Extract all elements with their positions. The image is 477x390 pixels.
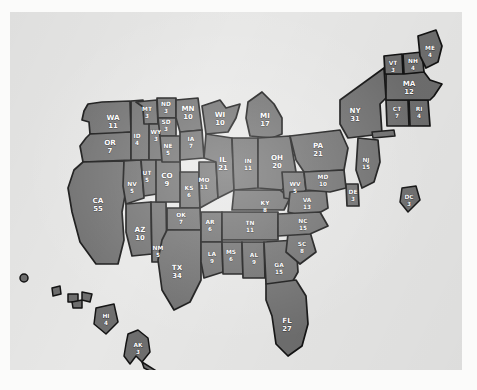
label-votes-hi: 4: [104, 320, 108, 326]
label-abbr-mn: MN: [181, 104, 194, 113]
screenshot-root: WA 11 OR 7 CA 55 NV 5 ID 4 MT 3 WY 3 UT …: [0, 0, 477, 390]
label-votes-wi: 10: [215, 119, 225, 127]
label-abbr-sc: SC: [298, 241, 307, 247]
label-abbr-me: ME: [425, 45, 435, 51]
label-votes-ga: 15: [275, 269, 283, 275]
state-shape-or[interactable]: [80, 132, 131, 162]
state-shape-nj[interactable]: [356, 138, 380, 188]
label-abbr-ia: IA: [188, 136, 195, 142]
electoral-map-panel: WA 11 OR 7 CA 55 NV 5 ID 4 MT 3 WY 3 UT …: [10, 12, 462, 370]
label-abbr-or: OR: [104, 138, 116, 147]
label-votes-nh: 4: [411, 65, 415, 71]
label-abbr-nm: NM: [153, 245, 164, 251]
label-abbr-id: ID: [133, 133, 140, 139]
label-abbr-la: LA: [208, 251, 217, 257]
label-votes-pa: 21: [313, 150, 323, 158]
alaska-tail: [142, 362, 160, 370]
label-votes-tx: 34: [172, 272, 182, 280]
label-votes-nd: 3: [164, 108, 168, 114]
label-votes-md: 10: [319, 181, 327, 187]
label-abbr-nv: NV: [127, 181, 137, 187]
label-abbr-ne: NE: [164, 143, 173, 149]
label-votes-sc: 8: [300, 248, 304, 254]
label-votes-ne: 5: [166, 150, 170, 156]
hawaii-islet-2: [52, 286, 61, 296]
label-votes-ks: 6: [187, 192, 191, 198]
label-abbr-ky: KY: [261, 200, 271, 206]
label-votes-wa: 11: [108, 122, 118, 130]
state-shape-ne[interactable]: [160, 136, 180, 162]
label-abbr-sd: SD: [161, 119, 170, 125]
label-abbr-dc: DC: [404, 194, 413, 200]
label-abbr-wa: WA: [106, 113, 120, 122]
label-votes-ar: 6: [208, 226, 212, 232]
long-island-shape: [372, 130, 395, 138]
label-abbr-co: CO: [161, 171, 172, 180]
label-abbr-tx: TX: [172, 263, 183, 272]
state-shape-tn[interactable]: [222, 212, 278, 240]
label-abbr-ar: AR: [205, 219, 215, 225]
label-abbr-ok: OK: [176, 212, 186, 218]
label-abbr-oh: OH: [271, 153, 283, 162]
label-abbr-ak: AK: [133, 342, 143, 348]
label-votes-va: 13: [303, 204, 311, 210]
label-votes-la: 9: [210, 258, 214, 264]
label-votes-ky: 8: [263, 207, 267, 213]
state-shape-ny[interactable]: [340, 68, 386, 138]
label-abbr-wv: WV: [289, 181, 300, 187]
label-votes-ok: 7: [179, 219, 183, 225]
hawaii-islet-4: [72, 300, 82, 308]
label-votes-ms: 6: [229, 256, 233, 262]
label-votes-mt: 3: [145, 113, 149, 119]
label-votes-ia: 7: [189, 143, 193, 149]
label-votes-nj: 15: [362, 164, 370, 170]
label-votes-me: 4: [428, 52, 432, 58]
label-votes-ut: 5: [145, 177, 149, 183]
label-abbr-in: IN: [244, 158, 251, 164]
label-abbr-ma: MA: [403, 79, 416, 88]
label-votes-az: 10: [135, 234, 145, 242]
label-votes-mo: 11: [200, 184, 208, 190]
state-shape-nc[interactable]: [278, 212, 328, 236]
hawaii-islet-1: [20, 274, 28, 282]
us-electoral-map[interactable]: WA 11 OR 7 CA 55 NV 5 ID 4 MT 3 WY 3 UT …: [10, 12, 462, 370]
label-abbr-ri: RI: [416, 106, 423, 112]
label-abbr-va: VA: [303, 197, 312, 203]
label-votes-in: 11: [244, 165, 252, 171]
state-shape-hi[interactable]: [94, 304, 118, 334]
label-abbr-nh: NH: [408, 58, 418, 64]
label-abbr-hi: HI: [102, 313, 109, 319]
label-votes-dc: 3: [407, 201, 411, 207]
label-abbr-nd: ND: [161, 101, 171, 107]
label-votes-ca: 55: [93, 205, 103, 213]
label-abbr-mi: MI: [260, 111, 270, 120]
label-votes-wv: 5: [293, 188, 297, 194]
label-votes-de: 3: [351, 196, 355, 202]
label-votes-oh: 20: [272, 162, 282, 170]
label-abbr-al: AL: [250, 252, 259, 258]
label-abbr-ut: UT: [143, 170, 152, 176]
label-votes-ma: 12: [404, 88, 414, 96]
label-abbr-tn: TN: [246, 220, 255, 226]
label-votes-sd: 3: [164, 126, 168, 132]
label-votes-tn: 11: [246, 227, 254, 233]
label-votes-co: 9: [165, 180, 170, 188]
label-abbr-ga: GA: [274, 262, 284, 268]
label-abbr-md: MD: [318, 174, 329, 180]
label-votes-nv: 5: [130, 188, 134, 194]
label-abbr-nj: NJ: [362, 157, 369, 164]
label-abbr-ms: MS: [226, 249, 236, 255]
label-abbr-az: AZ: [135, 225, 146, 234]
label-votes-id: 4: [135, 140, 139, 146]
state-shape-de[interactable]: [346, 184, 359, 206]
label-abbr-ca: CA: [93, 196, 104, 205]
state-shape-ut[interactable]: [141, 160, 157, 196]
label-votes-vt: 3: [391, 67, 395, 73]
label-votes-nc: 15: [299, 225, 307, 231]
label-votes-mi: 17: [260, 120, 270, 128]
label-votes-al: 9: [252, 259, 256, 265]
label-abbr-wi: WI: [215, 110, 226, 119]
label-abbr-pa: PA: [313, 141, 324, 150]
state-shape-in[interactable]: [232, 138, 258, 190]
label-abbr-de: DE: [349, 189, 358, 195]
